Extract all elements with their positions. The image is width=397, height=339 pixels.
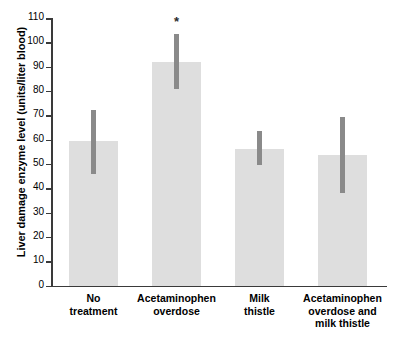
bar-chart: Liver damage enzyme level (units/liter b…: [0, 0, 397, 339]
x-axis-label: No treatment: [70, 292, 118, 317]
x-axis-label: Acetaminophen overdose and milk thistle: [303, 292, 382, 330]
y-tick-mark: [46, 261, 51, 263]
y-tick-label: 90: [14, 60, 44, 71]
y-axis-line: [51, 18, 53, 287]
y-tick-mark: [46, 67, 51, 69]
significance-marker: *: [174, 15, 179, 28]
y-tick-label: 80: [14, 84, 44, 95]
y-tick-label: 60: [14, 133, 44, 144]
y-tick-mark: [46, 188, 51, 190]
y-tick-mark: [46, 115, 51, 117]
error-bar: [174, 34, 179, 89]
y-tick-mark: [46, 164, 51, 166]
bar: [235, 149, 284, 285]
y-tick-mark: [46, 237, 51, 239]
y-tick-mark: [46, 42, 51, 44]
y-tick-label: 100: [14, 35, 44, 46]
x-axis-line: [51, 286, 387, 288]
y-tick-mark: [46, 18, 51, 20]
y-tick-mark: [46, 140, 51, 142]
x-axis-label: Milk thistle: [244, 292, 275, 317]
error-bar: [91, 110, 96, 173]
y-tick-label: 110: [14, 11, 44, 22]
y-tick-label: 20: [14, 230, 44, 241]
y-tick-label: 30: [14, 206, 44, 217]
y-tick-label: 10: [14, 254, 44, 265]
y-tick-mark: [46, 213, 51, 215]
error-bar: [340, 117, 345, 194]
y-tick-mark: [46, 286, 51, 288]
y-tick-label: 40: [14, 181, 44, 192]
plot-area: 0102030405060708090100110 *: [51, 18, 387, 287]
bar: [152, 62, 201, 286]
y-tick-label: 50: [14, 157, 44, 168]
y-tick-label: 0: [14, 279, 44, 290]
error-bar: [257, 131, 262, 165]
x-axis-label: Acetaminophen overdose: [137, 292, 216, 317]
y-tick-label: 70: [14, 108, 44, 119]
y-tick-mark: [46, 91, 51, 93]
